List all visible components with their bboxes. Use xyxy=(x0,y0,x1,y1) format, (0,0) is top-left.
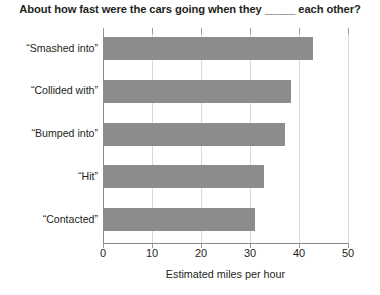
tick-top-40 xyxy=(299,28,300,34)
category-label: “Smashed into” xyxy=(0,42,98,54)
gridline-40 xyxy=(299,29,300,243)
bar xyxy=(103,123,285,146)
tick-top-10 xyxy=(152,28,153,34)
plot-area xyxy=(103,29,348,243)
x-tick-label: 10 xyxy=(132,247,172,259)
x-tick-label: 0 xyxy=(83,247,123,259)
x-tick-label: 30 xyxy=(230,247,270,259)
tick-top-0 xyxy=(103,28,104,34)
gridline-50 xyxy=(348,29,349,243)
category-label: “Hit” xyxy=(0,170,98,182)
x-tick-label: 40 xyxy=(279,247,319,259)
tick-top-50 xyxy=(348,28,349,34)
chart-title: About how fast were the cars going when … xyxy=(0,3,380,15)
tick-top-30 xyxy=(250,28,251,34)
category-label: “Bumped into” xyxy=(0,127,98,139)
bar xyxy=(103,208,255,231)
bar xyxy=(103,37,313,60)
x-tick-label: 50 xyxy=(328,247,368,259)
tick-top-20 xyxy=(201,28,202,34)
x-axis-line xyxy=(103,243,348,244)
bar xyxy=(103,165,264,188)
category-label: “Contacted” xyxy=(0,213,98,225)
x-tick-label: 20 xyxy=(181,247,221,259)
bar xyxy=(103,80,291,103)
category-label: “Collided with” xyxy=(0,84,98,96)
x-axis-title: Estimated miles per hour xyxy=(103,268,348,280)
bar-chart-figure: About how fast were the cars going when … xyxy=(0,0,380,295)
